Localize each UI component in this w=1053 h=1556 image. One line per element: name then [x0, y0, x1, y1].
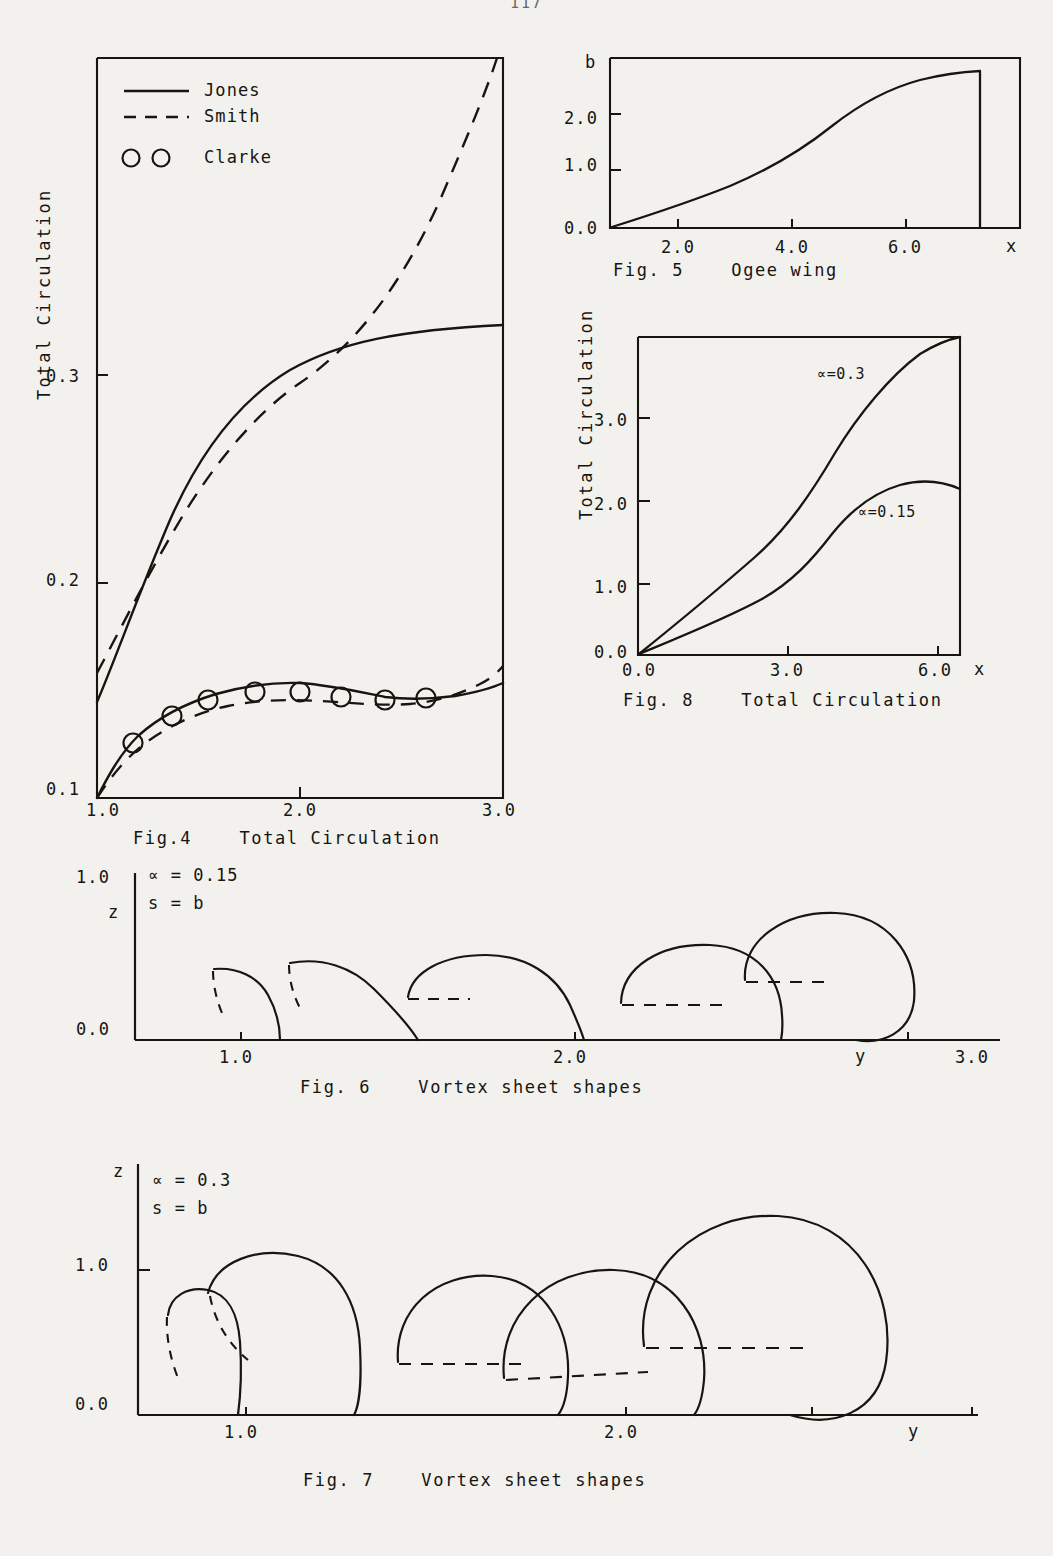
fig6-caption: Fig. 6 Vortex sheet shapes [300, 1077, 643, 1097]
figure-7: z ∝ = 0.3 s = b 1.0 0.0 1.0 2.0 y [0, 1150, 1053, 1550]
fig8-caption: Fig. 8 Total Circulation [623, 690, 943, 710]
fig7-plot [0, 1150, 1053, 1450]
fig4-legend-label-clarke: Clarke [204, 147, 272, 167]
fig4-caption: Fig.4 Total Circulation [133, 828, 441, 848]
fig4-legend-circle-swatch [123, 150, 170, 167]
fig8-annotation-alpha-015: ∝=0.15 [858, 503, 916, 521]
fig4-clarke-markers [124, 683, 436, 753]
fig5-caption: Fig. 5 Ogee wing [613, 260, 838, 280]
figure-4: Total Circulation 0.3 0.2 0.1 1.0 2.0 3.… [0, 0, 540, 850]
figure-8: Total Circulation 3.0 2.0 1.0 0.0 0.0 3.… [540, 320, 1053, 720]
fig6-plot [0, 855, 1053, 1065]
fig4-plot [0, 0, 540, 820]
figure-6: 1.0 z 0.0 ∝ = 0.15 s = b 1.0 2.0 y 3.0 [0, 855, 1053, 1145]
scanned-page: 117 Total Circulation 0.3 0.2 0.1 1.0 2.… [0, 0, 1053, 1556]
fig5-plot [540, 0, 1053, 260]
fig8-plot [540, 320, 1053, 680]
figure-5: b 2.0 1.0 0.0 2.0 4.0 6.0 x Fig. 5 Ogee … [540, 0, 1053, 300]
fig7-caption: Fig. 7 Vortex sheet shapes [303, 1470, 646, 1490]
fig4-legend-label-smith: Smith [204, 106, 261, 126]
fig4-legend-label-jones: Jones [204, 80, 261, 100]
fig8-annotation-alpha-03: ∝=0.3 [817, 365, 865, 383]
